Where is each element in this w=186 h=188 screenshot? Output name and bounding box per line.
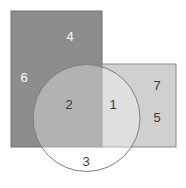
venn-diagram-figure: 1 2 3 4 5 6 7	[0, 0, 186, 188]
circle-shape	[33, 65, 140, 172]
venn-diagram-canvas: 1 2 3 4 5 6 7	[0, 0, 186, 188]
